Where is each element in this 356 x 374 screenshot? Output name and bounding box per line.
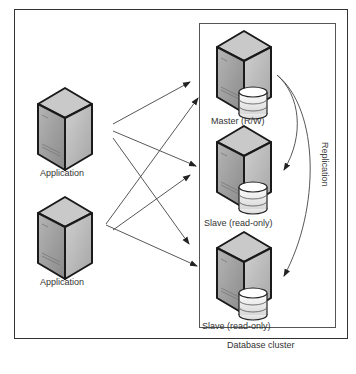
arrow-app1-slave1: [113, 131, 196, 166]
arrow-app2-slave1: [113, 175, 190, 230]
arrow-app2-slave2: [106, 225, 197, 266]
arrow-app1-master: [113, 82, 190, 124]
slave-db-server-1: [217, 126, 271, 214]
server-icon: [38, 88, 92, 170]
application-server-1: [38, 88, 92, 170]
app2-label: Application: [40, 277, 84, 287]
database-icon: [239, 288, 267, 320]
replication-arrows: [277, 75, 310, 276]
app1-label: Application: [40, 168, 84, 178]
slave-db-server-2: [217, 232, 271, 320]
database-icon: [239, 182, 267, 214]
arrow-app1-slave2: [113, 138, 189, 244]
app2-connections: [106, 98, 198, 266]
replication-arrow-slave1: [277, 75, 297, 170]
master-db-server: [217, 31, 271, 119]
slave1-label: Slave (read-only): [204, 218, 273, 228]
server-icon: [38, 197, 92, 279]
replication-arrow-slave2: [277, 75, 310, 276]
diagram-canvas: [0, 0, 356, 374]
app1-connections: [113, 82, 196, 244]
slave2-label: Slave (read-only): [202, 321, 271, 331]
replication-label: Replication: [320, 142, 330, 187]
cluster-label: Database cluster: [227, 340, 295, 350]
master-label: Master (R/W): [211, 116, 265, 126]
application-server-2: [38, 197, 92, 279]
database-icon: [239, 87, 267, 119]
